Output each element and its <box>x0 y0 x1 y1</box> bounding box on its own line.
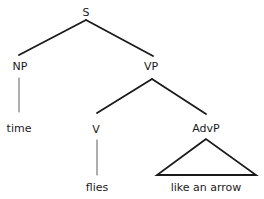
leaf-flies: flies <box>86 182 108 193</box>
tree-edges <box>0 0 264 199</box>
syntax-tree-diagram: S NP VP time V AdvP flies like an arrow <box>0 0 264 199</box>
advp-triangle <box>157 139 256 175</box>
node-vp: VP <box>144 61 158 72</box>
node-v: V <box>92 124 100 135</box>
node-np: NP <box>13 61 28 72</box>
leaf-time: time <box>7 123 32 134</box>
node-s: S <box>83 7 90 18</box>
edge-vp-v <box>97 79 152 113</box>
edge-vp-advp <box>152 79 206 114</box>
edge-s-np <box>19 20 86 55</box>
edge-s-vp <box>86 20 153 56</box>
node-advp: AdvP <box>192 123 219 134</box>
leaf-like-an-arrow: like an arrow <box>171 182 242 193</box>
